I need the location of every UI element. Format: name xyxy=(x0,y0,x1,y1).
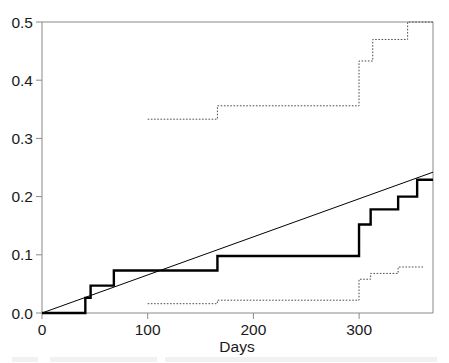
y-tick-label-4: 0.4 xyxy=(11,72,33,89)
data-series-group xyxy=(42,22,433,313)
plot-axes xyxy=(42,22,433,313)
y-tick-label-5: 0.5 xyxy=(11,14,33,31)
x-tick-label-200: 200 xyxy=(240,321,266,338)
series-upper-confidence-band xyxy=(148,22,433,119)
x-tick-label-300: 300 xyxy=(346,321,372,338)
cumulative-incidence-chart: 0.0 0.1 0.2 0.3 0.4 0.5 0 100 200 300 Da… xyxy=(0,0,449,363)
y-tick-label-1: 0.1 xyxy=(11,246,33,263)
x-tick-label-100: 100 xyxy=(135,321,161,338)
x-tick-label-0: 0 xyxy=(38,321,47,338)
figure-container: 0.0 0.1 0.2 0.3 0.4 0.5 0 100 200 300 Da… xyxy=(0,0,449,363)
y-tick-labels: 0.0 0.1 0.2 0.3 0.4 0.5 xyxy=(11,14,33,322)
x-tick-labels: 0 100 200 300 xyxy=(38,321,373,338)
series-lower-confidence-band xyxy=(148,267,425,304)
x-tick-marks xyxy=(42,313,359,319)
y-tick-label-3: 0.3 xyxy=(11,130,33,147)
y-tick-label-2: 0.2 xyxy=(11,188,33,205)
y-tick-marks xyxy=(36,22,42,313)
caption-partial-text xyxy=(12,357,437,362)
y-tick-label-0: 0.0 xyxy=(11,305,33,322)
series-cumulative-incidence-step xyxy=(42,180,433,313)
x-axis-title: Days xyxy=(219,338,255,355)
series-reference-line xyxy=(42,172,433,313)
